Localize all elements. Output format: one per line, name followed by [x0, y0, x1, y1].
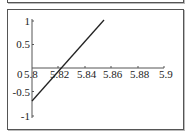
y-tick-label: -1	[21, 110, 30, 122]
plot-area: 1 0.5 -0.5 -1 0 5.8 5.82 5.84 5.86 5.88 …	[0, 0, 188, 136]
x-tick-label: 5.82	[50, 68, 69, 80]
y-tick-label: 0.5	[16, 38, 30, 50]
x-tick-label: 5.9	[159, 68, 173, 80]
data-line	[32, 20, 104, 101]
x-tick-label: 5.88	[130, 68, 150, 80]
x-tick-label: 5.84	[77, 68, 97, 80]
x-tick-label: 5.8	[24, 68, 38, 80]
y-tick-label: 1	[25, 15, 31, 27]
y-tick-label: -0.5	[13, 86, 31, 98]
x-tick-label: 5.86	[103, 68, 123, 80]
x-tick-label: 0	[17, 68, 23, 80]
